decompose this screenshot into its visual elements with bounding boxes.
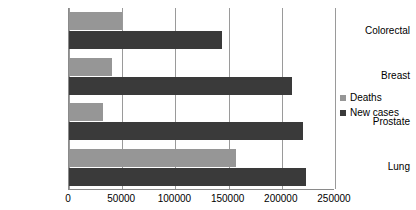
xtick-label-200000: 200000 bbox=[264, 193, 297, 205]
plot-area bbox=[68, 8, 334, 190]
legend-item-deaths: Deaths bbox=[340, 90, 399, 105]
category-label-colorectal: Colorectal bbox=[365, 25, 410, 36]
bar-colorectal-new-cases bbox=[69, 31, 222, 49]
xtick-label-100000: 100000 bbox=[158, 193, 191, 205]
bar-breast-new-cases bbox=[69, 77, 292, 95]
xtick-label-0: 0 bbox=[65, 193, 71, 205]
xtick-label-250000: 250000 bbox=[317, 193, 350, 205]
bar-prostate-deaths bbox=[69, 103, 103, 121]
category-label-breast: Breast bbox=[381, 70, 410, 81]
legend-swatch-icon-deaths bbox=[340, 95, 346, 101]
xtick-label-50000: 50000 bbox=[107, 193, 135, 205]
bar-prostate-new-cases bbox=[69, 122, 303, 140]
bar-lung-deaths bbox=[69, 149, 236, 167]
bar-breast-deaths bbox=[69, 58, 112, 76]
legend-label-new-cases: New cases bbox=[350, 107, 399, 119]
legend-item-new-cases: New cases bbox=[340, 105, 399, 120]
legend-swatch-icon-new-cases bbox=[340, 110, 346, 116]
bar-colorectal-deaths bbox=[69, 12, 122, 30]
category-label-lung: Lung bbox=[388, 161, 410, 172]
xtick-label-150000: 150000 bbox=[211, 193, 244, 205]
gridline-250000 bbox=[335, 8, 336, 189]
gridline-200000 bbox=[282, 8, 283, 189]
legend-label-deaths: Deaths bbox=[350, 92, 382, 104]
bar-chart: ColorectalBreastProstateLung 05000010000… bbox=[0, 0, 416, 210]
bar-lung-new-cases bbox=[69, 168, 306, 186]
chart-legend: Deaths New cases bbox=[340, 90, 399, 120]
